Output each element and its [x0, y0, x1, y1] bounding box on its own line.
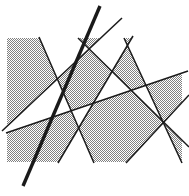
shaded-cell — [139, 98, 140, 148]
shaded-cell — [52, 117, 53, 162]
shaded-cell — [89, 110, 90, 153]
shaded-cell — [126, 47, 127, 86]
shaded-cell — [79, 58, 80, 108]
shaded-cell — [120, 94, 121, 162]
shaded-cell — [135, 94, 136, 153]
shaded-cell — [12, 131, 13, 162]
shaded-cell — [141, 100, 142, 146]
shaded-cell — [122, 54, 123, 82]
shaded-cell — [147, 106, 148, 140]
shaded-cell — [84, 118, 85, 141]
shaded-cell — [10, 131, 11, 162]
shaded-cell — [127, 46, 128, 87]
shaded-cell — [181, 140, 182, 162]
shaded-cell — [119, 59, 120, 79]
shaded-cell — [21, 38, 22, 113]
shaded-cell — [82, 55, 83, 107]
shaded-cell — [145, 104, 146, 142]
shaded-cell — [104, 64, 105, 84]
shaded-cell — [86, 115, 87, 146]
shaded-cell — [105, 65, 106, 83]
shaded-cell — [102, 62, 103, 88]
shaded-cell — [136, 65, 137, 89]
shaded-cell — [117, 95, 118, 162]
shaded-cell — [27, 126, 28, 162]
shaded-cell — [14, 130, 15, 162]
shaded-cell — [87, 113, 88, 148]
shaded-cell — [64, 113, 65, 152]
shaded-cell — [165, 79, 166, 120]
shaded-cell — [26, 126, 27, 162]
shaded-cell — [137, 67, 138, 88]
shaded-cell — [70, 111, 71, 142]
shaded-cell — [152, 111, 153, 134]
shaded-cell — [24, 127, 25, 162]
shaded-cell — [83, 54, 84, 107]
shaded-cell — [86, 51, 87, 106]
shaded-cell — [29, 38, 30, 105]
shaded-cell — [20, 128, 21, 162]
shaded-cell — [181, 73, 182, 103]
shaded-cell — [30, 38, 31, 104]
shaded-cell — [116, 95, 117, 162]
shaded-cell — [155, 114, 156, 131]
shaded-cell — [168, 78, 169, 117]
shaded-cell — [146, 105, 147, 141]
shaded-cell — [101, 100, 102, 162]
shaded-cell — [156, 82, 157, 108]
shaded-cell — [12, 38, 13, 121]
shaded-cell — [169, 77, 170, 116]
shaded-cell — [95, 103, 96, 162]
shaded-cell — [81, 56, 82, 107]
shaded-cell — [38, 122, 39, 162]
shaded-cell — [32, 38, 33, 102]
shaded-cell — [118, 61, 119, 78]
shaded-cell — [179, 138, 180, 158]
shaded-cell — [46, 119, 47, 162]
shaded-cell — [62, 114, 63, 155]
shaded-cell — [126, 92, 127, 162]
shaded-cell — [103, 100, 104, 162]
shaded-cell — [134, 93, 135, 154]
shaded-cell — [154, 82, 155, 104]
shaded-cell — [119, 94, 120, 162]
shaded-cell — [45, 120, 46, 162]
shaded-cell — [144, 103, 145, 143]
shaded-cell — [129, 91, 130, 159]
shaded-cell — [137, 96, 138, 151]
shaded-cell — [123, 52, 124, 83]
shaded-cell — [124, 93, 125, 162]
shaded-cell — [90, 108, 91, 155]
shaded-cell — [76, 61, 77, 109]
shaded-cell — [122, 93, 123, 162]
shaded-cell — [16, 38, 17, 117]
shaded-cell — [16, 129, 17, 162]
shaded-cell — [107, 98, 108, 162]
shaded-cell — [125, 49, 126, 85]
shaded-cell — [67, 112, 68, 147]
shaded-cell — [175, 75, 176, 110]
shaded-cell — [53, 117, 54, 162]
shaded-cell — [78, 59, 79, 108]
shaded-cell — [100, 60, 101, 91]
shaded-cell — [98, 101, 99, 162]
shaded-cell — [151, 110, 152, 135]
shaded-cell — [42, 45, 43, 93]
shaded-cell — [44, 50, 45, 91]
shaded-cell — [103, 63, 104, 86]
shaded-cell — [132, 92, 133, 156]
shaded-cell — [13, 130, 14, 162]
shaded-cell — [84, 53, 85, 106]
shaded-cell — [113, 96, 114, 162]
shaded-cell — [19, 128, 20, 162]
shaded-cell — [37, 38, 38, 98]
shaded-cell — [9, 38, 10, 124]
shaded-cell — [160, 80, 161, 117]
figure-canvas — [0, 0, 189, 196]
shaded-cell — [45, 52, 46, 90]
shaded-cell — [57, 115, 58, 162]
shaded-cell — [28, 38, 29, 106]
shaded-cell — [17, 129, 18, 162]
shaded-cell — [171, 77, 172, 114]
shaded-cell — [36, 38, 37, 99]
